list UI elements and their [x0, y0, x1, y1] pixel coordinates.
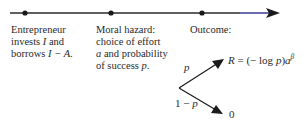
timeline-axis — [10, 8, 280, 18]
stage-2-line-3: a and probability — [96, 48, 168, 60]
stage-1-line-1: Entrepreneur — [11, 24, 73, 36]
stage-1-line-3: borrows I − A. — [11, 48, 73, 60]
stage-2-line-1: Moral hazard: — [96, 24, 168, 36]
timeline-dot-3 — [199, 10, 204, 15]
success-payoff-formula: R = (− log p)aβ — [228, 52, 294, 66]
timeline-dot-2 — [108, 10, 113, 15]
success-arrowhead-icon — [212, 59, 224, 69]
failure-probability-label: 1 − p — [175, 97, 198, 109]
failure-payoff-label: 0 — [229, 108, 235, 120]
stage-1-line-2: invests I and — [11, 36, 73, 48]
stage-2-line-4: of success p. — [96, 60, 168, 72]
success-probability-label: p — [184, 61, 190, 73]
stage-3-label: Outcome: — [190, 24, 231, 36]
stage-3-line-1: Outcome: — [190, 24, 231, 36]
stage-2-line-2: choice of effort — [96, 36, 168, 48]
failure-arrowhead-icon — [211, 105, 223, 114]
timeline-dot-1 — [22, 10, 27, 15]
stage-2-label: Moral hazard: choice of effort a and pro… — [96, 24, 168, 72]
stage-1-label: Entrepreneur invests I and borrows I − A… — [11, 24, 73, 60]
